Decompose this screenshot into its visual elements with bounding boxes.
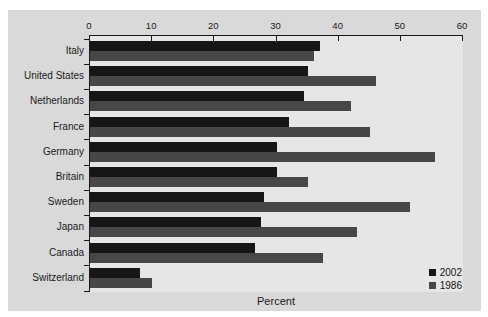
bar-netherlands-2002: [90, 91, 304, 101]
bar-canada-2002: [90, 243, 255, 253]
bar-japan-2002: [90, 217, 261, 227]
y-axis-tick: [84, 215, 89, 216]
x-axis-tick: [89, 36, 90, 41]
bar-britain-2002: [90, 167, 277, 177]
bar-italy-2002: [90, 41, 320, 51]
bar-netherlands-1986: [90, 101, 351, 111]
x-axis-tick-label: 0: [74, 20, 104, 31]
category-label: Switzerland: [6, 268, 84, 288]
y-axis-tick: [84, 291, 89, 292]
category-label: Germany: [6, 142, 84, 162]
legend-swatch-1986: [429, 282, 436, 289]
category-label: Italy: [6, 41, 84, 61]
bar-switzerland-2002: [90, 268, 140, 278]
y-axis-tick: [84, 64, 89, 65]
y-axis-tick: [84, 190, 89, 191]
x-axis-tick: [400, 36, 401, 41]
category-label: Sweden: [6, 192, 84, 212]
category-label: Netherlands: [6, 91, 84, 111]
x-axis-tick-label: 10: [136, 20, 166, 31]
legend-label-2002: 2002: [440, 267, 462, 278]
chart-figure: 2002 1986 Percent ItalyUnited StatesNeth…: [0, 0, 488, 317]
x-axis-tick: [213, 36, 214, 41]
x-axis-tick-label: 20: [198, 20, 228, 31]
legend-entry-1986: 1986: [429, 279, 462, 292]
bar-japan-1986: [90, 227, 357, 237]
x-axis-tick: [276, 36, 277, 41]
x-axis-tick-label: 60: [447, 20, 477, 31]
x-axis-title: Percent: [89, 295, 463, 307]
category-label: Japan: [6, 217, 84, 237]
bar-switzerland-1986: [90, 278, 152, 288]
bar-canada-1986: [90, 253, 323, 263]
x-axis-tick: [338, 36, 339, 41]
y-axis-tick: [84, 89, 89, 90]
y-axis-tick: [84, 114, 89, 115]
x-axis-tick: [151, 36, 152, 41]
legend-swatch-2002: [429, 269, 436, 276]
y-axis-tick: [84, 165, 89, 166]
bar-germany-1986: [90, 152, 435, 162]
bar-italy-1986: [90, 51, 314, 61]
bar-france-2002: [90, 117, 289, 127]
category-label: Canada: [6, 243, 84, 263]
bar-united-states-2002: [90, 66, 308, 76]
category-label: Britain: [6, 167, 84, 187]
category-label: United States: [6, 66, 84, 86]
bar-germany-2002: [90, 142, 277, 152]
legend-entry-2002: 2002: [429, 266, 462, 279]
bar-sweden-2002: [90, 192, 264, 202]
legend: 2002 1986: [429, 266, 462, 292]
y-axis-tick: [84, 39, 89, 40]
y-axis-tick: [84, 139, 89, 140]
bar-sweden-1986: [90, 202, 410, 212]
x-axis-tick: [462, 36, 463, 41]
x-axis-tick-label: 50: [385, 20, 415, 31]
bar-france-1986: [90, 127, 370, 137]
bar-britain-1986: [90, 177, 308, 187]
legend-label-1986: 1986: [440, 280, 462, 291]
bar-united-states-1986: [90, 76, 376, 86]
y-axis-tick: [84, 240, 89, 241]
x-axis-tick-label: 40: [323, 20, 353, 31]
x-axis-tick-label: 30: [261, 20, 291, 31]
category-label: France: [6, 117, 84, 137]
y-axis-tick: [84, 265, 89, 266]
